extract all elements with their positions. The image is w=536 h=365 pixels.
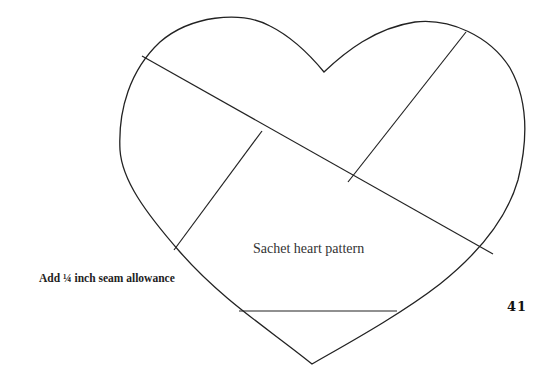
- heart-pattern-diagram: [0, 0, 536, 365]
- seam-line-right: [348, 32, 466, 182]
- seam-line-diagonal-long: [142, 56, 493, 254]
- page-number: 41: [507, 299, 527, 314]
- seam-allowance-caption: Add ¼ inch seam allowance: [39, 272, 175, 284]
- seam-line-left: [174, 131, 262, 250]
- heart-outline: [120, 17, 525, 364]
- pattern-label: Sachet heart pattern: [253, 241, 364, 257]
